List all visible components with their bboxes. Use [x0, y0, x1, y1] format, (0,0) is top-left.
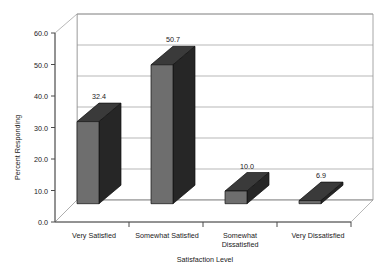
- x-axis-title: Satisfaction Level: [150, 255, 260, 264]
- y-tick-label-0: 0.0: [18, 218, 48, 227]
- bar-chart: 60.0 50.0 40.0 30.0 20.0 10.0 0.0 Percen…: [0, 0, 388, 274]
- bar-front-face: [299, 201, 321, 204]
- value-label-very-dissatisfied: 6.9: [291, 171, 351, 180]
- y-tick-label-10: 10.0: [18, 187, 48, 196]
- y-axis: [51, 33, 55, 222]
- value-label-very-satisfied: 32.4: [69, 92, 129, 101]
- y-tick-label-60: 60.0: [18, 29, 48, 38]
- x-tick-label-very-satisfied: Very Satisfied: [58, 231, 130, 240]
- x-tick-label-very-dissatisfied: Very Dissatisfied: [280, 231, 356, 240]
- bar-very-satisfied: [77, 103, 121, 204]
- chart-floor-panel: [55, 200, 373, 222]
- y-tick-label-50: 50.0: [18, 61, 48, 70]
- cat-line-1: Somewhat Satisfied: [135, 231, 199, 240]
- y-tick-label-30: 30.0: [18, 124, 48, 133]
- cat-line-1: Somewhat: [223, 231, 257, 240]
- cat-line-1: Very Satisfied: [72, 231, 116, 240]
- bar-front-face: [151, 65, 173, 204]
- chart-left-depth-panel: [55, 14, 77, 222]
- x-axis: [55, 222, 351, 227]
- cat-line-1: Very Dissatisfied: [291, 231, 344, 240]
- x-tick-label-somewhat-dissatisfied: SomewhatDissatisfied: [207, 231, 273, 250]
- y-tick-label-20: 20.0: [18, 155, 48, 164]
- cat-line-2: Dissatisfied: [222, 240, 259, 249]
- bar-front-face: [225, 191, 247, 204]
- y-axis-title: Percent Responding: [13, 115, 22, 180]
- value-label-somewhat-dissatisfied: 10.0: [217, 162, 277, 171]
- x-tick-label-somewhat-satisfied: Somewhat Satisfied: [129, 231, 205, 240]
- value-label-somewhat-satisfied: 50.7: [143, 35, 203, 44]
- bar-somewhat-satisfied: [151, 46, 195, 203]
- bar-side-face: [173, 46, 195, 203]
- bar-front-face: [77, 122, 99, 204]
- y-tick-label-40: 40.0: [18, 92, 48, 101]
